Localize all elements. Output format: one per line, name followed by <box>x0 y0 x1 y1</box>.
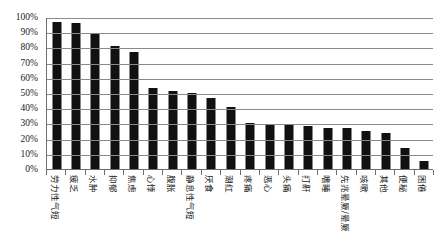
bar <box>149 88 158 169</box>
plot-area <box>46 18 433 170</box>
bar <box>168 91 177 169</box>
x-axis-category-label: 腹胀 <box>164 175 178 252</box>
gridline <box>47 109 433 110</box>
y-axis-tick-label: 20% <box>21 135 38 145</box>
x-axis-tick <box>433 170 434 175</box>
bar <box>284 125 293 169</box>
gridline <box>47 94 433 95</box>
bar <box>362 131 371 169</box>
x-axis-category-label: 先兆晕厥/晕厥 <box>338 175 352 252</box>
gridline <box>47 155 433 156</box>
bar <box>381 133 390 169</box>
x-axis-category-label: 厌食 <box>202 175 216 252</box>
bar <box>400 148 409 169</box>
x-axis-labels: 劳力性气短疲乏水肿抑郁焦虑心悸腹胀静息性气短厌食潮红疼痛恶心头痛打鼾嗜睡先兆晕厥… <box>46 175 433 252</box>
y-axis-labels: 0%10%20%30%40%50%60%70%80%90%100% <box>0 18 42 170</box>
bar <box>323 128 332 169</box>
x-axis-category-label: 咳嗽 <box>357 175 371 252</box>
y-axis-tick-label: 40% <box>21 104 38 114</box>
gridline <box>47 64 433 65</box>
bar-chart: 0%10%20%30%40%50%60%70%80%90%100% 劳力性气短疲… <box>0 0 439 252</box>
x-axis-category-label: 静息性气短 <box>183 175 197 252</box>
gridline <box>47 124 433 125</box>
x-axis-category-label: 便秘 <box>396 175 410 252</box>
x-axis-category-label: 打鼾 <box>299 175 313 252</box>
y-axis-tick-label: 10% <box>21 150 38 160</box>
y-axis-tick-label: 90% <box>21 28 38 38</box>
gridline <box>47 48 433 49</box>
bar <box>72 23 81 169</box>
x-axis-category-label: 水肿 <box>86 175 100 252</box>
x-axis-category-label: 头痛 <box>280 175 294 252</box>
x-axis-category-label: 恶心 <box>261 175 275 252</box>
x-axis-category-label: 焦虑 <box>125 175 139 252</box>
bar <box>246 123 255 169</box>
gridline <box>47 18 433 19</box>
y-axis-tick-label: 30% <box>21 120 38 130</box>
y-axis-tick-label: 100% <box>16 13 38 23</box>
y-axis-tick-label: 70% <box>21 59 38 69</box>
bar <box>130 52 139 169</box>
bar <box>342 128 351 169</box>
x-axis-category-label: 疼痛 <box>241 175 255 252</box>
gridline <box>47 79 433 80</box>
x-axis-category-label: 心悸 <box>144 175 158 252</box>
gridline <box>47 140 433 141</box>
y-axis-tick-label: 50% <box>21 89 38 99</box>
x-axis-category-label: 其他 <box>377 175 391 252</box>
bar <box>265 125 274 169</box>
x-axis-category-label: 潮红 <box>222 175 236 252</box>
y-axis-tick-label: 80% <box>21 44 38 54</box>
x-axis-category-label: 抑郁 <box>106 175 120 252</box>
y-axis-tick-label: 60% <box>21 74 38 84</box>
bar <box>52 22 61 169</box>
x-axis-category-label: 困倦 <box>415 175 429 252</box>
y-axis-tick-label: 0% <box>25 165 38 175</box>
bar <box>91 34 100 169</box>
x-axis-category-label: 嗜睡 <box>319 175 333 252</box>
gridline <box>47 33 433 34</box>
bar <box>420 161 429 169</box>
x-axis-category-label: 疲乏 <box>67 175 81 252</box>
bar <box>226 107 235 169</box>
bar <box>304 126 313 169</box>
x-axis-category-label: 劳力性气短 <box>48 175 62 252</box>
bar <box>188 93 197 169</box>
